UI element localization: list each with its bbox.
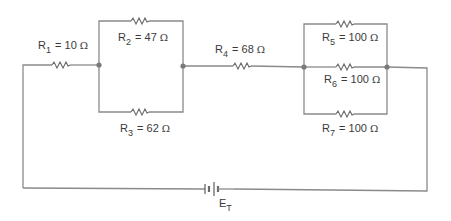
battery-symbol [205, 182, 234, 196]
ohm-unit: Ω [162, 123, 170, 134]
label-value: 10 [65, 39, 77, 51]
label-equals: = [341, 73, 347, 85]
circuit-wiring [0, 0, 451, 221]
label-r4: R4 = 68Ω [215, 43, 265, 56]
resistor-r5-symbol [336, 21, 354, 27]
label-r1: R1 = 10Ω [38, 39, 88, 52]
label-symbol: R [324, 73, 332, 85]
junction-node-d [384, 64, 389, 69]
resistor-r1-symbol [52, 62, 70, 68]
label-r7: R7 = 100Ω [322, 122, 378, 135]
label-subscript: 6 [332, 79, 337, 89]
label-subscript: T [226, 203, 232, 213]
ohm-unit: Ω [80, 40, 88, 51]
resistor-r4-symbol [233, 63, 251, 69]
junction-node-b [180, 63, 185, 68]
label-equals: = [55, 39, 61, 51]
label-symbol: R [322, 31, 330, 43]
label-symbol: R [38, 39, 46, 51]
junction-node-a [96, 62, 101, 67]
ohm-unit: Ω [160, 32, 168, 43]
label-equals: = [232, 43, 238, 55]
label-equals: = [339, 122, 345, 134]
label-value: 100 [349, 122, 367, 134]
label-symbol: R [215, 43, 223, 55]
label-value: 47 [145, 31, 157, 43]
ohm-unit: Ω [257, 44, 265, 55]
ohm-unit: Ω [372, 74, 380, 85]
resistor-r3-symbol [131, 109, 149, 115]
label-equals: = [135, 31, 141, 43]
label-r3: R3 = 62Ω [120, 122, 170, 135]
label-symbol: R [118, 31, 126, 43]
junction-node-c [301, 64, 306, 69]
label-equals: = [339, 31, 345, 43]
label-r2: R2 = 47Ω [118, 31, 168, 44]
circuit-diagram: R1 = 10Ω R2 = 47Ω R3 = 62Ω R4 = 68Ω R5 =… [0, 0, 451, 221]
label-subscript: 7 [330, 128, 335, 138]
label-subscript: 3 [128, 128, 133, 138]
label-value: 100 [349, 31, 367, 43]
ohm-unit: Ω [370, 32, 378, 43]
label-subscript: 2 [126, 37, 131, 47]
label-subscript: 4 [223, 49, 228, 59]
resistor-r6-symbol [336, 64, 354, 70]
label-symbol: R [120, 122, 128, 134]
resistor-r2-symbol [131, 18, 149, 24]
label-symbol: R [322, 122, 330, 134]
label-value: 100 [351, 73, 369, 85]
ohm-unit: Ω [370, 123, 378, 134]
label-source-et: ET [219, 197, 233, 210]
resistor-r7-symbol [336, 111, 354, 117]
label-equals: = [137, 122, 143, 134]
label-subscript: 5 [330, 37, 335, 47]
label-subscript: 1 [46, 45, 51, 55]
label-r6: R6 = 100Ω [324, 73, 380, 86]
label-value: 68 [242, 43, 254, 55]
label-value: 62 [147, 122, 159, 134]
label-r5: R5 = 100Ω [322, 31, 378, 44]
